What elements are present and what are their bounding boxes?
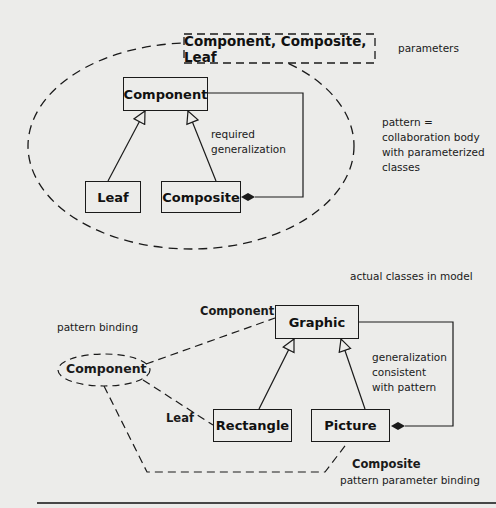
pattern-note-line1: pattern = xyxy=(382,115,433,129)
role-composite-label: Composite xyxy=(352,457,421,471)
pattern-note-line4: classes xyxy=(382,160,420,174)
pattern-binding-label: pattern binding xyxy=(57,320,138,334)
required-generalization-line2: generalization xyxy=(211,142,286,156)
generalization-note-line1: generalization xyxy=(372,350,447,364)
collaboration-ellipse xyxy=(28,43,354,249)
generalization-note-line2: consistent xyxy=(372,365,426,379)
class-leaf[interactable]: Leaf xyxy=(85,181,141,213)
class-graphic[interactable]: Graphic xyxy=(275,305,359,339)
composite-diamond xyxy=(241,193,255,201)
class-picture[interactable]: Picture xyxy=(311,409,390,442)
picture-diamond xyxy=(391,422,405,430)
pattern-note-line3: with parameterized xyxy=(382,145,485,159)
actual-classes-label: actual classes in model xyxy=(350,269,473,283)
class-composite[interactable]: Composite xyxy=(161,181,241,213)
pattern-usage-name[interactable]: Component xyxy=(66,362,147,376)
required-generalization-line1: required xyxy=(211,127,255,141)
class-rectangle[interactable]: Rectangle xyxy=(213,409,292,442)
role-leaf-label: Leaf xyxy=(166,411,194,425)
generalization-note-line3: with pattern xyxy=(372,380,436,394)
pattern-note-line2: collaboration body xyxy=(382,130,480,144)
role-component-label: Component xyxy=(200,304,274,318)
parameters-box-text: Component, Composite, Leaf xyxy=(184,34,375,63)
class-component[interactable]: Component xyxy=(123,77,208,111)
parameters-label: parameters xyxy=(398,41,459,55)
parameter-binding-label: pattern parameter binding xyxy=(340,473,480,487)
